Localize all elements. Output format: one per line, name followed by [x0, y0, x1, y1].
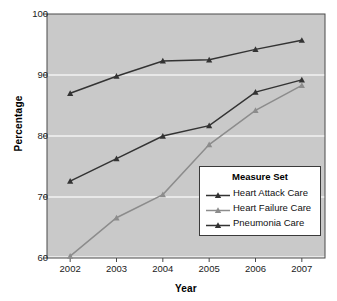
legend-item-label: Heart Failure Care: [231, 202, 311, 213]
legend-item[interactable]: Heart Attack Care: [205, 185, 315, 200]
x-tick-label: 2004: [143, 263, 183, 274]
y-tick-label: 90: [8, 69, 48, 80]
y-tick-label: 70: [8, 191, 48, 202]
legend-item[interactable]: Heart Failure Care: [205, 200, 315, 215]
legend-title: Measure Set: [205, 171, 315, 182]
x-tick-label: 2007: [282, 263, 322, 274]
legend-item-label: Heart Attack Care: [231, 187, 308, 198]
legend-marker-icon: [205, 187, 231, 198]
x-axis-title: Year: [47, 283, 325, 294]
y-axis-title: Percentage: [13, 84, 24, 164]
line-chart: Percentage Year 60708090100 200220032004…: [0, 0, 337, 301]
legend-marker-icon: [205, 217, 231, 228]
plot-area: [0, 0, 337, 301]
legend-item[interactable]: Pneumonia Care: [205, 215, 315, 230]
x-tick-label: 2006: [236, 263, 276, 274]
legend-item-label: Pneumonia Care: [231, 217, 304, 228]
y-tick-label: 100: [8, 8, 48, 19]
x-tick-label: 2003: [97, 263, 137, 274]
legend-marker-icon: [205, 202, 231, 213]
y-tick-label: 80: [8, 130, 48, 141]
x-tick-label: 2005: [189, 263, 229, 274]
legend: Measure Set Heart Attack CareHeart Failu…: [199, 166, 321, 236]
y-tick-label: 60: [8, 252, 48, 263]
x-tick-label: 2002: [50, 263, 90, 274]
legend-items: Heart Attack CareHeart Failure CarePneum…: [205, 185, 315, 230]
